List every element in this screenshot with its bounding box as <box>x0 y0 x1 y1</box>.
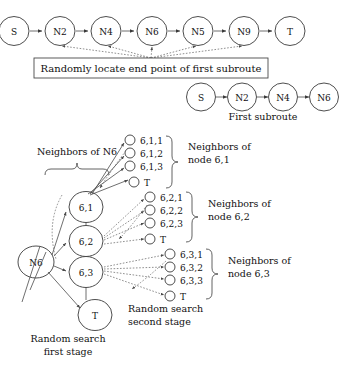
chain-node-label: N4 <box>99 27 113 37</box>
stage1-node-label: 6,3 <box>79 268 94 278</box>
edge-62-to-622 <box>104 211 144 238</box>
subroute-node-n2[interactable]: N2 <box>228 83 257 111</box>
leaf-label: 6,3,1 <box>180 250 203 260</box>
chain-node-label: T <box>287 27 293 37</box>
edge-62-to-62t <box>104 239 144 244</box>
subroute-node-label: N4 <box>276 93 290 103</box>
stage1-caption: Random search first stage <box>30 333 105 357</box>
leaf-6-1-1[interactable]: 6,1,1 <box>125 135 163 146</box>
group-62-label-line2: node 6,2 <box>208 211 250 222</box>
leaf-6-3-3[interactable]: 6,3,3 <box>165 275 203 286</box>
fan-edge-n9 <box>151 46 242 58</box>
chain-node-t[interactable]: T <box>275 17 305 46</box>
group-6-2: 6,2,1 6,2,2 6,2,3 T Neighbors of node 6,… <box>104 192 272 245</box>
neighbors-of-n6-brace <box>45 163 109 175</box>
first-subroute-chain: S N2 N4 N6 First subroute <box>187 83 339 122</box>
subroute-node-label: N6 <box>317 93 331 103</box>
fan-edge-n5 <box>151 46 196 58</box>
stage1-nodes: 6,1 6,2 6,3 T <box>69 192 112 331</box>
edge-63-to-633 <box>104 271 164 279</box>
subroute-node-s[interactable]: S <box>187 83 216 111</box>
edge-n6-to-62 <box>54 243 66 256</box>
group-62-brace <box>186 192 198 242</box>
stage1-caption-line1: Random search <box>30 333 105 344</box>
leaf-label: T <box>180 292 186 302</box>
chain-node-n4[interactable]: N4 <box>91 17 121 46</box>
group-63-brace <box>206 249 218 299</box>
stage1-node-label: 6,2 <box>79 237 93 247</box>
leaf-6-1-t[interactable]: T <box>129 177 150 188</box>
leaf-6-1-2[interactable]: 6,1,2 <box>125 148 163 159</box>
leaf-6-3-t[interactable]: T <box>165 291 186 302</box>
leaf-6-3-2[interactable]: 6,3,2 <box>165 262 203 273</box>
group-61-label-line1: Neighbors of <box>188 141 252 152</box>
group-61-brace <box>166 136 178 188</box>
chain-node-n9[interactable]: N9 <box>229 17 259 46</box>
stage1-node-6-3[interactable]: 6,3 <box>69 257 103 288</box>
action-box[interactable]: Randomly locate end point of first subro… <box>34 58 268 78</box>
arc-group-63 <box>132 261 166 289</box>
leaf-label: 6,1,2 <box>140 149 163 159</box>
chain-node-n6[interactable]: N6 <box>137 17 167 46</box>
stage2-caption-line1: Random search <box>128 303 203 314</box>
edge-n6-to-61 <box>52 212 66 255</box>
chain-node-label: S <box>11 27 17 37</box>
chain-node-label: N6 <box>145 27 159 37</box>
leaf-label: 6,3,2 <box>180 263 203 273</box>
stage1-node-6-2[interactable]: 6,2 <box>69 226 103 257</box>
chain-node-s[interactable]: S <box>0 17 29 46</box>
subroute-node-n4[interactable]: N4 <box>269 83 298 111</box>
leaf-label: 6,1,3 <box>140 162 163 172</box>
chain-node-n5[interactable]: N5 <box>183 17 213 46</box>
full-route-chain: S N2 N4 N6 N5 N9 T <box>0 17 305 46</box>
leaf-label: T <box>144 178 150 188</box>
group-63-label-line1: Neighbors of <box>228 255 292 266</box>
box-to-chain-fan <box>62 46 242 58</box>
group-61-label-line2: node 6,1 <box>188 154 230 165</box>
fan-edge-n4 <box>108 46 151 58</box>
stage1-node-label: T <box>92 311 98 321</box>
group-63-label-line2: node 6,3 <box>228 268 270 279</box>
fan-edge-n2 <box>62 46 151 58</box>
edge-63-to-631 <box>104 255 164 267</box>
subroute-node-label: S <box>198 93 204 103</box>
chain-node-label: N5 <box>191 27 205 37</box>
edge-62-to-621 <box>104 199 144 236</box>
chain-node-label: N2 <box>53 27 67 37</box>
leaf-6-1-3[interactable]: 6,1,3 <box>125 161 163 172</box>
leaf-label: 6,1,1 <box>140 136 163 146</box>
stage1-node-6-1[interactable]: 6,1 <box>69 192 103 223</box>
group-6-3: 6,3,1 6,3,2 6,3,3 T Neighbors of node 6,… <box>104 249 292 302</box>
stage2-caption: Random search second stage <box>128 303 203 327</box>
edge-62-to-623 <box>104 223 144 240</box>
stage1-caption-line2: first stage <box>44 346 93 357</box>
edge-63-to-63t <box>104 274 164 295</box>
leaf-label: 6,2,1 <box>160 193 183 203</box>
leaf-6-3-1[interactable]: 6,3,1 <box>165 249 203 260</box>
leaf-label: 6,2,2 <box>160 206 183 216</box>
group-62-label-line1: Neighbors of <box>208 198 272 209</box>
stage1-node-label: 6,1 <box>79 203 93 213</box>
chain-node-n2[interactable]: N2 <box>45 17 75 46</box>
first-subroute-caption: First subroute <box>229 111 298 122</box>
edge-63-to-632 <box>104 267 164 269</box>
subroute-node-label: N2 <box>235 93 249 103</box>
leaf-label: 6,3,3 <box>180 276 203 286</box>
stage1-node-t[interactable]: T <box>78 300 112 331</box>
leaf-label: 6,2,3 <box>160 219 183 229</box>
neighbors-of-n6-annotation: Neighbors of N6 <box>37 146 117 175</box>
leaf-6-2-3[interactable]: 6,2,3 <box>145 218 183 229</box>
leaf-6-2-1[interactable]: 6,2,1 <box>145 192 183 203</box>
fan-edge-n6 <box>151 47 152 58</box>
subroute-node-n6[interactable]: N6 <box>310 83 339 111</box>
leaf-label: T <box>160 235 166 245</box>
leaf-6-2-2[interactable]: 6,2,2 <box>145 205 183 216</box>
chain-node-label: N9 <box>237 27 251 37</box>
group-6-1: 6,1,1 6,1,2 6,1,3 T Neighbors of node 6,… <box>88 135 252 195</box>
arc-group-62 <box>119 205 147 239</box>
neighbors-of-n6-label: Neighbors of N6 <box>37 146 117 157</box>
figure-canvas: S N2 N4 N6 N5 N9 T <box>0 0 346 375</box>
edge-n6-to-63 <box>54 266 66 271</box>
leaf-6-2-t[interactable]: T <box>145 234 166 245</box>
action-box-label: Randomly locate end point of first subro… <box>40 63 261 74</box>
